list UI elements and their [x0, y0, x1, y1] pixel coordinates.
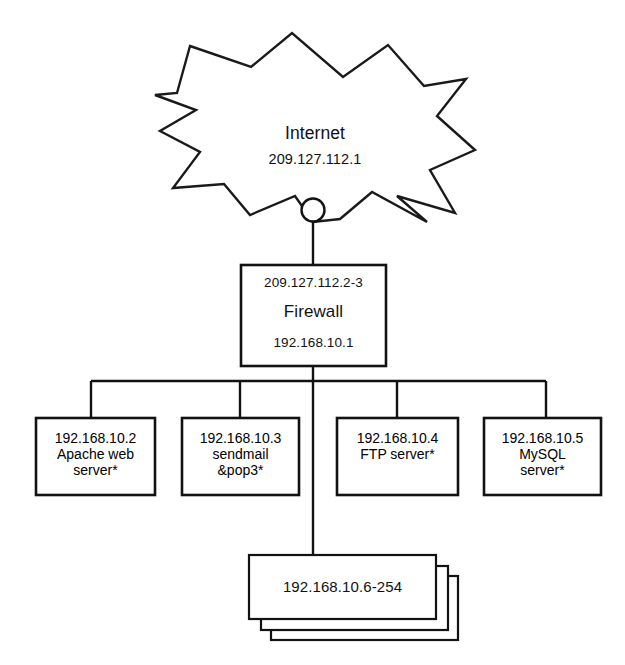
server-2-line2: sendmail	[182, 446, 299, 462]
firewall-internal-ip: 192.168.10.1	[241, 335, 386, 351]
server-1-line2: Apache web	[36, 446, 155, 462]
firewall-external-ip: 209.127.112.2-3	[241, 275, 386, 291]
network-diagram: Internet 209.127.112.1 209.127.112.2-3 F…	[0, 0, 625, 665]
server-1-labels: 192.168.10.2 Apache web server*	[36, 430, 155, 478]
server-3-line2: FTP server*	[337, 446, 458, 462]
server-2-ip: 192.168.10.3	[182, 430, 299, 446]
firewall-label: Firewall	[241, 302, 386, 322]
server-1-line3: server*	[36, 462, 155, 478]
workstation-ip-range-label: 192.168.10.6-254	[249, 578, 436, 596]
internet-label: Internet	[240, 123, 390, 144]
server-4-ip: 192.168.10.5	[484, 430, 601, 446]
server-3-ip: 192.168.10.4	[337, 430, 458, 446]
server-2-labels: 192.168.10.3 sendmail &pop3*	[182, 430, 299, 478]
server-1-ip: 192.168.10.2	[36, 430, 155, 446]
internet-ip-label: 209.127.112.1	[235, 151, 395, 168]
cloud-firewall-connector-icon	[302, 199, 325, 222]
server-4-line3: server*	[484, 462, 601, 478]
diagram-canvas	[0, 0, 625, 665]
server-4-labels: 192.168.10.5 MySQL server*	[484, 430, 601, 478]
server-2-line3: &pop3*	[182, 462, 299, 478]
server-4-line2: MySQL	[484, 446, 601, 462]
server-3-labels: 192.168.10.4 FTP server*	[337, 430, 458, 462]
